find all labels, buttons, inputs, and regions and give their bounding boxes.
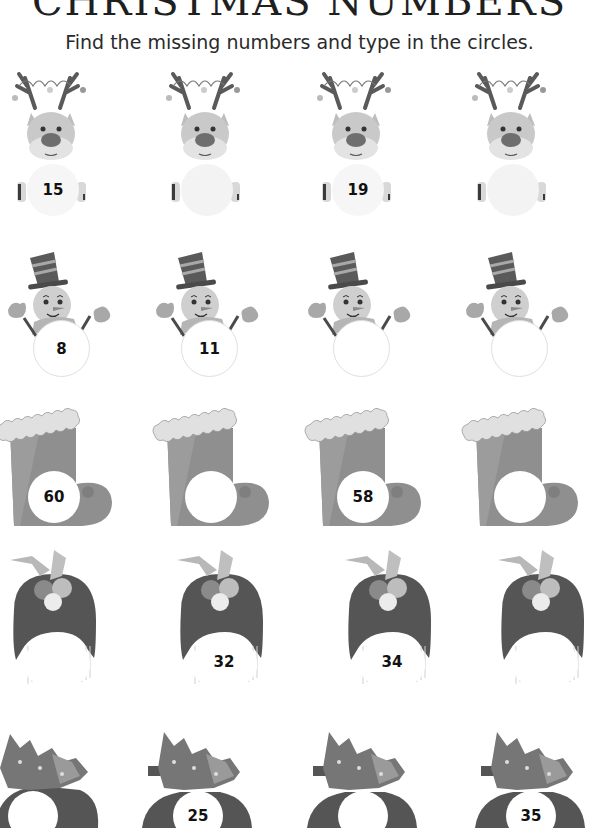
pudding-cell [498, 550, 599, 700]
car-tree-cell: 35 [473, 728, 599, 828]
number-circle[interactable]: 8 [33, 320, 90, 377]
stocking-cell: 58 [309, 416, 439, 566]
number-value: 19 [348, 181, 369, 199]
snowman-cell: 11 [150, 250, 280, 400]
pudding-cell [10, 550, 140, 700]
reindeer-cell: 15 [5, 68, 135, 218]
number-value: 58 [353, 488, 374, 506]
stocking-cell [466, 416, 596, 566]
number-circle[interactable]: 19 [332, 164, 384, 216]
snowman-cell [460, 250, 590, 400]
number-circle[interactable]: 58 [337, 471, 389, 523]
number-circle[interactable]: 15 [27, 164, 79, 216]
car-tree-cell [305, 728, 435, 828]
number-circle[interactable] [487, 164, 539, 216]
number-value: 60 [44, 488, 65, 506]
number-circle[interactable] [512, 638, 578, 686]
number-circle[interactable] [24, 638, 90, 686]
number-value: 35 [521, 807, 542, 825]
worksheet-title: CHRISTMAS NUMBERS [0, 0, 599, 24]
car-tree-cell [0, 728, 110, 828]
number-circle[interactable]: 11 [181, 320, 238, 377]
number-circle[interactable] [333, 320, 390, 377]
stocking-cell [157, 416, 287, 566]
number-value: 8 [56, 340, 66, 358]
number-value: 25 [188, 807, 209, 825]
number-circle[interactable] [494, 471, 546, 523]
number-circle[interactable]: 34 [359, 638, 425, 686]
number-value: 15 [43, 181, 64, 199]
pudding-cell: 32 [177, 550, 307, 700]
snowman-cell: 8 [2, 250, 132, 400]
snowman-cell [302, 250, 432, 400]
worksheet-instruction: Find the missing numbers and type in the… [0, 31, 599, 53]
number-value: 11 [199, 340, 220, 358]
number-circle[interactable]: 32 [191, 638, 257, 686]
number-value: 34 [382, 653, 403, 671]
reindeer-cell [465, 68, 595, 218]
number-circle[interactable]: 60 [28, 471, 80, 523]
car-tree-cell: 25 [140, 728, 270, 828]
number-circle[interactable] [185, 471, 237, 523]
reindeer-cell: 19 [310, 68, 440, 218]
number-circle[interactable] [491, 320, 548, 377]
number-circle[interactable] [181, 164, 233, 216]
reindeer-cell [159, 68, 289, 218]
number-value: 32 [214, 653, 235, 671]
pudding-cell: 34 [345, 550, 475, 700]
stocking-cell: 60 [0, 416, 130, 566]
